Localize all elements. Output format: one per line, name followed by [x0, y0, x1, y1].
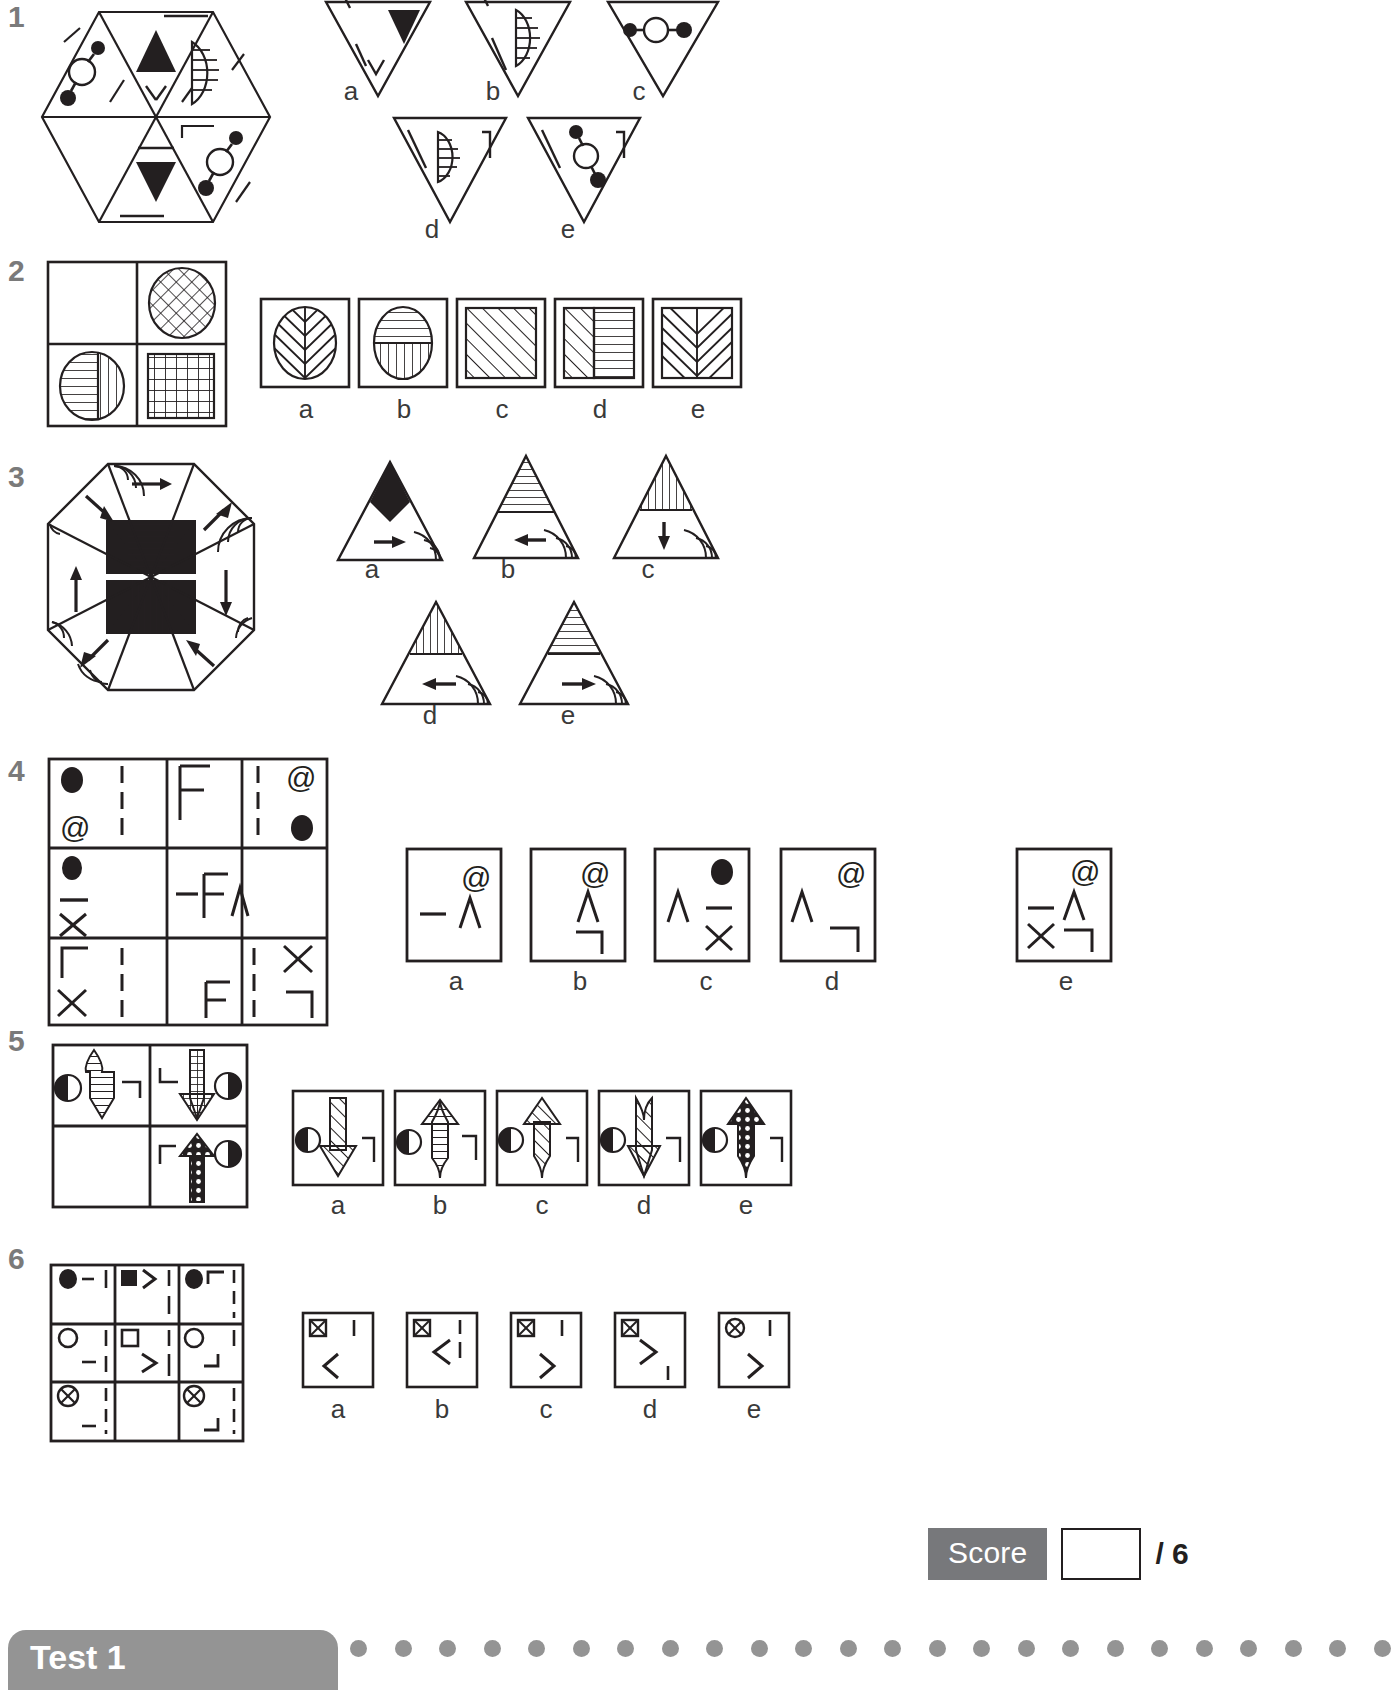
dotted-up-arrow-icon	[728, 1098, 764, 1178]
down-arrow-icon	[220, 570, 232, 616]
question-6-stem	[48, 1262, 246, 1444]
score-input-box[interactable]	[1061, 1528, 1141, 1580]
diagonal-hatch-square-icon	[466, 308, 536, 378]
question-3-option-c[interactable]	[606, 448, 726, 568]
black-up-triangle-icon	[136, 30, 176, 72]
question-2-option-c[interactable]	[454, 296, 548, 390]
footer-dot	[751, 1640, 768, 1657]
question-2-option-d[interactable]	[552, 296, 646, 390]
question-2-option-a[interactable]	[258, 296, 352, 390]
question-4-option-a[interactable]: @	[404, 846, 504, 964]
footer-dot	[1062, 1640, 1079, 1657]
score-area: Score / 6	[928, 1528, 1189, 1580]
question-6-option-b-label: b	[422, 1396, 462, 1422]
question-2-option-c-label: c	[482, 396, 522, 422]
dumbbell-icon	[623, 18, 692, 42]
footer-dot	[1151, 1640, 1168, 1657]
footer-dot	[706, 1640, 723, 1657]
question-6-option-e-label: e	[734, 1396, 774, 1422]
question-5-option-c[interactable]	[494, 1088, 590, 1188]
half-filled-circle-icon	[703, 1128, 727, 1152]
hatched-down-arrow-icon	[320, 1098, 356, 1176]
question-1-option-b-label: b	[473, 78, 513, 104]
question-3-option-b[interactable]	[466, 448, 586, 568]
corner-bracket-icon	[462, 1136, 476, 1160]
footer-dot	[350, 1640, 367, 1657]
black-diamond-icon	[370, 462, 410, 522]
question-4-option-c[interactable]	[652, 846, 752, 964]
crossed-square-icon	[414, 1320, 430, 1336]
half-lined-ellipse-icon	[372, 306, 436, 383]
up-right-arrow-icon	[204, 502, 232, 530]
question-number-6: 6	[8, 1244, 25, 1274]
question-3-option-a[interactable]	[330, 456, 450, 568]
black-dot-icon	[711, 859, 733, 885]
question-5-option-e[interactable]	[698, 1088, 794, 1188]
half-lined-ellipse-icon	[60, 352, 124, 420]
caret-glyph	[578, 892, 598, 922]
at-symbol: @	[1070, 855, 1100, 888]
half-filled-circle-icon	[215, 1073, 241, 1099]
question-3-option-e-label: e	[548, 702, 588, 728]
question-5-option-d[interactable]	[596, 1088, 692, 1188]
question-2-option-b[interactable]	[356, 296, 450, 390]
hatched-half-ellipse-icon	[516, 10, 540, 66]
hatched-up-arrow-icon	[524, 1098, 560, 1178]
corner-bracket-icon	[160, 1068, 178, 1082]
question-4-option-e[interactable]: @	[1014, 846, 1114, 964]
question-1-option-d[interactable]	[386, 110, 516, 230]
question-number-1: 1	[8, 2, 25, 32]
half-filled-circle-icon	[296, 1128, 320, 1152]
question-2-option-b-label: b	[384, 396, 424, 422]
herringbone-square-icon	[658, 296, 736, 390]
question-1-option-e[interactable]	[520, 110, 650, 230]
greater-than-glyph	[142, 1354, 156, 1372]
question-3-option-e[interactable]	[512, 596, 642, 714]
question-4-option-b[interactable]: @	[528, 846, 628, 964]
footer-dot	[1374, 1640, 1391, 1657]
greater-than-glyph	[143, 1270, 155, 1288]
x-glyph	[58, 990, 86, 1016]
question-4-option-e-label: e	[1046, 968, 1086, 994]
up-arrow-icon	[70, 566, 82, 612]
footer-tab[interactable]: Test 1	[8, 1630, 338, 1690]
question-5-option-d-label: d	[624, 1192, 664, 1218]
score-total: / 6	[1155, 1537, 1188, 1571]
question-4-option-d[interactable]: @	[778, 846, 878, 964]
x-glyph	[60, 914, 86, 936]
footer-dot	[662, 1640, 679, 1657]
down-right-arrow-icon	[86, 496, 114, 522]
corner-bracket-icon	[770, 1138, 782, 1162]
fine-grid-square-icon	[148, 354, 214, 418]
black-dot-icon	[61, 767, 83, 793]
footer-dot	[1107, 1640, 1124, 1657]
question-3-option-d[interactable]	[374, 596, 504, 714]
caret-glyph	[792, 892, 812, 922]
right-arrow-icon	[562, 678, 596, 690]
question-6-option-a[interactable]	[300, 1310, 376, 1390]
corner-arcs-icon	[414, 532, 440, 560]
half-filled-circle-icon	[215, 1141, 241, 1167]
x-glyph	[706, 926, 732, 950]
footer-dot	[1196, 1640, 1213, 1657]
at-symbol: @	[286, 761, 316, 794]
question-5-option-e-label: e	[726, 1192, 766, 1218]
open-circle-icon	[185, 1329, 203, 1347]
question-3-stem	[36, 452, 266, 712]
question-6-option-b[interactable]	[404, 1310, 480, 1390]
question-6-option-e[interactable]	[716, 1310, 792, 1390]
dotted-up-arrow-icon	[180, 1134, 214, 1202]
question-5-option-a[interactable]	[290, 1088, 386, 1188]
corner-bracket-icon	[566, 1138, 578, 1162]
question-6-option-d[interactable]	[612, 1310, 688, 1390]
at-symbol: @	[580, 857, 610, 890]
at-symbol: @	[60, 811, 90, 844]
left-arrow-icon	[514, 534, 546, 546]
question-5-option-b[interactable]	[392, 1088, 488, 1188]
question-3-option-b-label: b	[488, 556, 528, 582]
corner-bracket-icon	[666, 1138, 680, 1162]
black-dot-icon	[62, 856, 82, 880]
question-2-option-e[interactable]	[650, 296, 744, 390]
question-6-option-c[interactable]	[508, 1310, 584, 1390]
